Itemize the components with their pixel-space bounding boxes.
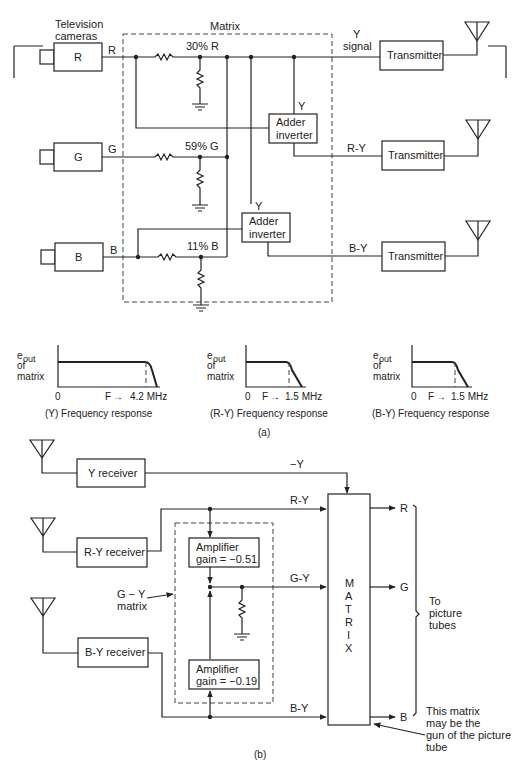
transmitter-section: Television cameras Matrix R R G G B B bbox=[14, 18, 506, 311]
camera-lens-icon bbox=[40, 150, 54, 164]
svg-text:I: I bbox=[347, 629, 350, 641]
svg-text:Adder: Adder bbox=[249, 215, 279, 227]
svg-text:Adder: Adder bbox=[276, 116, 306, 128]
svg-text:may be the: may be the bbox=[426, 717, 480, 729]
svg-text:F: F bbox=[428, 391, 434, 402]
svg-text:of: of bbox=[207, 360, 216, 371]
antenna-feed-by bbox=[445, 240, 478, 256]
svg-text:4.2 MHz: 4.2 MHz bbox=[130, 391, 167, 402]
camera-g: G bbox=[40, 143, 102, 171]
resistor-label-11b: 11% B bbox=[187, 240, 219, 252]
y-signal-label-1: Y bbox=[353, 28, 361, 40]
note-pointer bbox=[374, 724, 425, 735]
transmitter-by: Transmitter bbox=[382, 242, 445, 271]
ry-label: R-Y bbox=[290, 494, 310, 506]
ground-resistor-r bbox=[192, 57, 208, 110]
chart-y-frequency-response: e out of matrix 0 F → 4.2 MHz (Y) Freque… bbox=[17, 345, 167, 419]
output-r: R bbox=[400, 502, 408, 514]
svg-text:→: → bbox=[270, 391, 280, 402]
y-receiver: Y receiver bbox=[77, 459, 145, 487]
antenna-icon bbox=[466, 221, 490, 240]
wire-label-r: R bbox=[108, 44, 116, 56]
resistor-label-30r: 30% R bbox=[186, 40, 219, 52]
svg-text:gain = −0.51: gain = −0.51 bbox=[196, 553, 257, 565]
g-signal-line bbox=[102, 154, 227, 160]
svg-text:0: 0 bbox=[55, 391, 61, 402]
gy-matrix-label-2: matrix bbox=[117, 600, 147, 612]
by-output-line bbox=[268, 242, 390, 256]
svg-text:Y receiver: Y receiver bbox=[88, 467, 138, 479]
chart-caption: (R-Y) Frequency response bbox=[210, 408, 328, 419]
matrix-label: Matrix bbox=[210, 20, 240, 32]
ry-receiver: R-Y receiver bbox=[77, 538, 147, 567]
camera-r-label: R bbox=[74, 51, 82, 63]
ry-signal-label: R-Y bbox=[347, 142, 367, 154]
transmitter-y: Transmitter bbox=[380, 41, 443, 70]
adder-inverter-2: Adder inverter Y bbox=[242, 200, 290, 242]
svg-text:gun of the picture: gun of the picture bbox=[426, 729, 511, 741]
adder2-y-label: Y bbox=[255, 200, 263, 212]
adder1-y-label: Y bbox=[298, 100, 306, 112]
svg-text:of: of bbox=[373, 360, 382, 371]
ground-resistor bbox=[234, 587, 250, 640]
tv-color-system-diagram: Television cameras Matrix R R G G B B bbox=[0, 0, 524, 773]
figure-caption-b: (b) bbox=[254, 749, 266, 760]
svg-text:0: 0 bbox=[411, 391, 417, 402]
svg-text:F: F bbox=[105, 391, 111, 402]
svg-text:R: R bbox=[345, 616, 353, 628]
brace bbox=[413, 505, 419, 716]
svg-text:R-Y receiver: R-Y receiver bbox=[84, 546, 145, 558]
antenna-feed-y bbox=[443, 41, 477, 55]
svg-text:tube: tube bbox=[426, 741, 447, 753]
transmitter-ry: Transmitter bbox=[382, 141, 444, 170]
amplifier-019: Amplifier gain = −0.19 bbox=[189, 660, 259, 689]
by-signal-label: B-Y bbox=[349, 242, 368, 254]
cameras-label-2: cameras bbox=[55, 30, 98, 42]
svg-text:Transmitter: Transmitter bbox=[388, 250, 444, 262]
frame-corner-left bbox=[14, 46, 43, 78]
adder-inverter-1: Adder inverter Y bbox=[269, 100, 317, 143]
svg-text:This matrix: This matrix bbox=[426, 705, 480, 717]
svg-text:inverter: inverter bbox=[276, 129, 313, 141]
r-signal-line bbox=[102, 54, 390, 60]
svg-text:Transmitter: Transmitter bbox=[388, 149, 444, 161]
chart-caption: (B-Y) Frequency response bbox=[372, 408, 490, 419]
main-matrix: M A T R I X bbox=[328, 494, 370, 725]
svg-text:matrix: matrix bbox=[17, 371, 44, 382]
antenna-icon bbox=[31, 598, 55, 616]
chart-by-frequency-response: e out of matrix 0 F → 1.5 MHz (B-Y) Freq… bbox=[372, 345, 490, 419]
frame-corner-right bbox=[488, 46, 506, 78]
antenna-icon bbox=[466, 120, 490, 139]
svg-text:matrix: matrix bbox=[373, 371, 400, 382]
svg-text:0: 0 bbox=[245, 391, 251, 402]
svg-text:T: T bbox=[345, 603, 352, 615]
camera-r: R bbox=[40, 43, 102, 71]
output-g: G bbox=[400, 581, 409, 593]
svg-text:Transmitter: Transmitter bbox=[387, 49, 443, 61]
neg-y-label: −Y bbox=[290, 458, 304, 470]
gy-label: G-Y bbox=[290, 572, 310, 584]
gy-matrix-label-1: G − Y bbox=[117, 588, 146, 600]
output-b: B bbox=[400, 711, 407, 723]
ground-resistor-g bbox=[192, 157, 208, 211]
svg-text:A: A bbox=[345, 590, 353, 602]
svg-text:picture: picture bbox=[429, 607, 462, 619]
svg-text:inverter: inverter bbox=[249, 228, 286, 240]
svg-text:To: To bbox=[429, 595, 441, 607]
svg-text:1.5 MHz: 1.5 MHz bbox=[285, 391, 322, 402]
ground-resistor-b bbox=[193, 257, 209, 311]
by-receiver: B-Y receiver bbox=[78, 638, 148, 667]
chart-caption: (Y) Frequency response bbox=[45, 408, 153, 419]
svg-text:B-Y receiver: B-Y receiver bbox=[85, 646, 146, 658]
cameras-label-1: Television bbox=[55, 18, 103, 30]
svg-text:→: → bbox=[113, 391, 123, 402]
camera-lens-icon bbox=[40, 50, 54, 64]
svg-text:1.5 MHz: 1.5 MHz bbox=[451, 391, 488, 402]
b-signal-line bbox=[103, 254, 227, 260]
svg-text:X: X bbox=[345, 642, 353, 654]
svg-text:→: → bbox=[436, 391, 446, 402]
figure-caption-a: (a) bbox=[258, 427, 270, 438]
antenna-icon bbox=[30, 440, 54, 458]
camera-g-label: G bbox=[74, 151, 83, 163]
ry-output-line bbox=[294, 143, 390, 156]
